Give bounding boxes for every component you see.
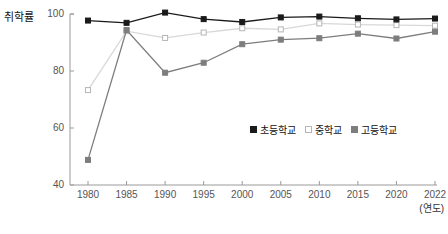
- legend-marker-elementary: [250, 126, 257, 133]
- legend-item-middle: 중학교: [305, 122, 342, 137]
- x-axis-tick-label: 1985: [107, 189, 147, 200]
- x-axis-tick-label: 2020: [376, 189, 416, 200]
- x-axis-tick-label: 2005: [261, 189, 301, 200]
- legend-marker-middle: [305, 126, 312, 133]
- legend-label-middle: 중학교: [315, 122, 342, 137]
- legend-item-high: 고등학교: [351, 122, 397, 137]
- chart-legend: 초등학교 중학교 고등학교: [250, 122, 397, 137]
- x-axis-tick-label: 1995: [184, 189, 224, 200]
- x-axis-tick-label: 1990: [145, 189, 185, 200]
- x-axis-tick-label: 2010: [299, 189, 339, 200]
- y-axis-tick-label: 60: [38, 122, 64, 133]
- legend-label-elementary: 초등학교: [260, 122, 296, 137]
- legend-label-high: 고등학교: [361, 122, 397, 137]
- x-axis-tick-label: 2022: [415, 189, 448, 200]
- x-axis-tick-label: 2000: [222, 189, 262, 200]
- legend-marker-high: [351, 126, 358, 133]
- x-axis-tick-label: 2015: [338, 189, 378, 200]
- x-axis-tick-label: 1980: [68, 189, 108, 200]
- y-axis-tick-label: 100: [38, 8, 64, 19]
- y-axis-tick-label: 80: [38, 65, 64, 76]
- y-axis-tick-label: 40: [38, 179, 64, 190]
- legend-item-elementary: 초등학교: [250, 122, 296, 137]
- x-axis-unit-label: (연도): [419, 200, 444, 215]
- enrollment-rate-line-chart: 취학률 초등학교 중학교 고등학교 (연도) 40608010019801985…: [0, 0, 448, 234]
